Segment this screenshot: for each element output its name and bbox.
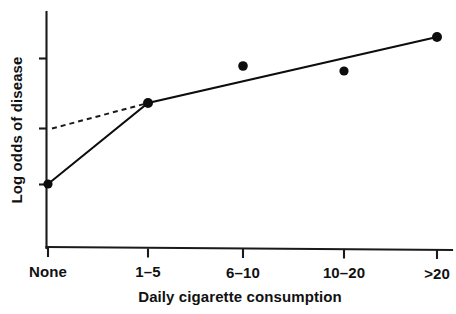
data-point-one-to-five — [143, 98, 153, 108]
x-tick-label-over-twenty: >20 — [424, 265, 450, 282]
data-point-over-twenty — [432, 32, 442, 42]
data-point-six-to-ten — [238, 61, 248, 71]
x-tick-label-one-to-five: 1–5 — [135, 263, 160, 280]
chart-figure: None 1–5 6–10 10–20 >20 Daily cigarette … — [0, 0, 456, 314]
x-tick-label-six-to-ten: 6–10 — [226, 264, 260, 281]
data-point-ten-to-twenty — [339, 66, 348, 75]
y-axis-title: Log odds of disease — [8, 57, 25, 204]
x-axis-title: Daily cigarette consumption — [138, 288, 342, 305]
data-point-none — [43, 179, 52, 188]
x-tick-label-none: None — [29, 263, 67, 280]
log-odds-line-chart: None 1–5 6–10 10–20 >20 Daily cigarette … — [0, 0, 456, 314]
x-tick-label-ten-to-twenty: 10–20 — [323, 264, 365, 281]
